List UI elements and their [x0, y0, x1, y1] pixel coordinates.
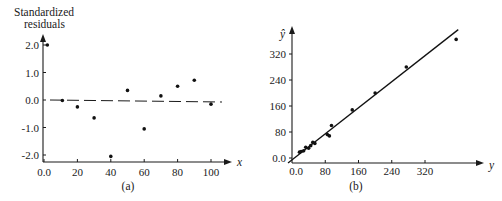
y-axis-label: ŷ [279, 28, 286, 41]
y-axis-arrow-icon [289, 26, 295, 34]
x-tick-label: 0.0 [289, 165, 303, 177]
x-tick-label: 320 [417, 165, 434, 177]
x-tick-label: 240 [384, 165, 401, 177]
fitted-vs-observed-plot: yŷ0.0801602403200.080160240320(b) [0, 0, 502, 201]
data-point [309, 144, 313, 148]
x-tick-label: 160 [350, 165, 367, 177]
data-point [328, 134, 332, 138]
x-axis-arrow-icon [476, 160, 484, 166]
data-point [330, 124, 334, 128]
y-tick-label: 240 [270, 74, 287, 86]
data-point [404, 65, 408, 69]
data-point [350, 108, 354, 112]
y-tick-label: 160 [270, 100, 287, 112]
data-point [373, 91, 377, 95]
x-tick-label: 80 [320, 165, 332, 177]
data-point [454, 38, 458, 42]
y-tick-label: 80 [275, 126, 287, 138]
caption-b: (b) [349, 180, 363, 193]
y-tick-label: 320 [270, 48, 287, 60]
x-axis-label: y [488, 159, 495, 172]
data-point [313, 142, 317, 146]
y-tick-label: 0.0 [272, 152, 286, 164]
data-point [302, 149, 306, 153]
